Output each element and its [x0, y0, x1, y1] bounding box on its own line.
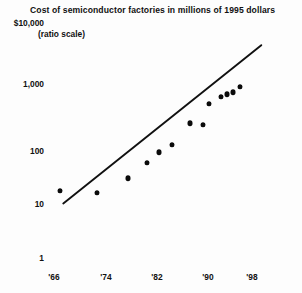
semiconductor-factory-cost-chart: Cost of semiconductor factories in milli… [0, 0, 302, 293]
trend-line [0, 0, 302, 293]
